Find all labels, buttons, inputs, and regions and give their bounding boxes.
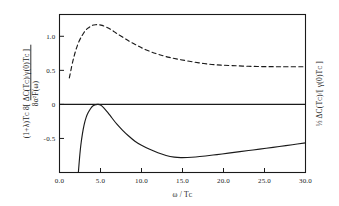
y-axis-label-left-denominator: 8α²F(ω) — [31, 80, 40, 106]
x-tick-label: 20.0 — [217, 177, 230, 185]
x-tick-label: 0.0 — [55, 177, 65, 185]
x-tick-label: 5.0 — [96, 177, 106, 185]
chart-canvas: 0.05.010.015.020.025.030.0 1.00.50-0.5 ω… — [0, 0, 339, 206]
x-tick-label: 10.0 — [135, 177, 148, 185]
y-tick-label: 0 — [52, 101, 56, 109]
y-axis-label-right-text: ⅓ ΔC(Tᴄ)/[ γ(0)Tᴄ ] — [315, 61, 324, 126]
figure: 0.05.010.015.020.025.030.0 1.00.50-0.5 ω… — [0, 0, 339, 206]
x-tick-label: 25.0 — [258, 177, 271, 185]
y-axis-label-right: ⅓ ΔC(Tᴄ)/[ γ(0)Tᴄ ] — [315, 61, 324, 126]
y-tick-label: -0.5 — [44, 135, 56, 143]
x-tick-label: 15.0 — [176, 177, 189, 185]
y-axis-label-left-numerator: (1+λ)Tᴄ 8[ ΔC(Tᴄ)/γ(0)Tᴄ ] — [22, 49, 31, 139]
y-tick-label: 0.5 — [46, 67, 56, 75]
x-axis-label: ω / Tᴄ — [172, 190, 192, 199]
y-tick-label: 1.0 — [46, 33, 56, 41]
x-tick-label: 30.0 — [299, 177, 312, 185]
